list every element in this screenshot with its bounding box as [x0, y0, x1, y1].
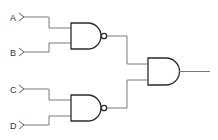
- input-arrow-icon: [19, 13, 24, 21]
- inversion-bubble-icon: [101, 105, 106, 110]
- and-gate: [148, 58, 180, 85]
- wire-c: [24, 89, 71, 100]
- wire-d: [24, 116, 71, 125]
- input-b: B: [10, 43, 71, 58]
- input-label-c: C: [10, 85, 17, 95]
- input-arrow-icon: [19, 85, 24, 93]
- input-arrow-icon: [19, 121, 24, 129]
- input-label-a: A: [10, 13, 16, 23]
- wire-a: [24, 17, 71, 28]
- nand-gate-1: [71, 23, 107, 49]
- inversion-bubble-icon: [101, 33, 106, 38]
- input-arrow-icon: [19, 48, 24, 56]
- input-d: D: [10, 116, 71, 131]
- wire-nand1-out: [107, 36, 148, 64]
- wire-nand2-out: [107, 80, 148, 108]
- input-c: C: [10, 85, 71, 100]
- wire-b: [24, 43, 71, 52]
- input-label-b: B: [10, 48, 16, 58]
- input-label-d: D: [10, 121, 17, 131]
- nand-gate-2: [71, 95, 107, 121]
- nand-body-icon: [71, 95, 101, 121]
- input-a: A: [10, 13, 71, 28]
- nand-body-icon: [71, 23, 101, 49]
- and-body-icon: [148, 58, 180, 85]
- logic-circuit-diagram: A B C D: [0, 0, 218, 140]
